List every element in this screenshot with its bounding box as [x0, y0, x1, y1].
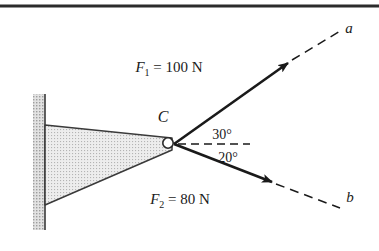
pin-circle: [163, 138, 173, 148]
force-f2-label: F2 = 80 N: [149, 191, 210, 210]
force-f2-equals: =: [164, 191, 180, 207]
angle-lower-label: 20°: [218, 150, 238, 165]
angle-upper-label: 30°: [212, 127, 232, 142]
force-f2-magnitude: 80: [180, 191, 195, 207]
ray-b-dashed-extension: [276, 184, 340, 208]
force-diagram-figure: C F1 = 100 N F2 = 80 N 30° 20° a b: [0, 0, 379, 251]
force-f1-magnitude: 100: [166, 59, 189, 75]
force-diagram-svg: C F1 = 100 N F2 = 80 N 30° 20° a b: [0, 0, 379, 251]
force-f1-unit-text: N: [192, 59, 203, 75]
ray-b-label: b: [346, 189, 354, 205]
force-f1-equals: =: [150, 59, 166, 75]
ray-a-label: a: [345, 20, 353, 36]
force-f1-label: F1 = 100 N: [134, 59, 202, 78]
force-f2-unit-text: N: [199, 191, 210, 207]
ray-a-dashed-extension: [292, 30, 342, 60]
point-c-label: C: [158, 108, 169, 125]
wall-hatching: [33, 94, 45, 230]
